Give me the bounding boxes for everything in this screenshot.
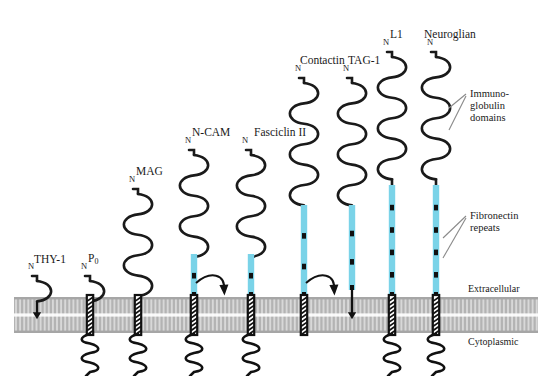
fibronectin-repeats-leader <box>443 216 466 238</box>
p0-n-terminus-label: N <box>81 262 87 272</box>
tag-1-fibronectin-rod <box>349 205 355 290</box>
annotation-leaders <box>443 94 466 258</box>
l1-fibronectin-rod <box>389 185 395 297</box>
l1-fibronectin-band <box>390 272 394 278</box>
contactin-ig-domains <box>290 83 318 205</box>
mag-cytoplasmic-tail <box>130 334 147 376</box>
fasciclin-ii-fibronectin-band <box>249 273 253 279</box>
mag-ig-domains <box>124 194 152 296</box>
n-cam-gpi-arrowhead <box>219 284 228 295</box>
n-cam-gpi-curve <box>196 275 224 291</box>
neuroglian-cytoplasmic-tail <box>428 334 445 376</box>
molecule-n-cam[interactable] <box>180 150 229 376</box>
annotation-line: globulin <box>470 100 509 112</box>
tag-1-ig-domains <box>338 83 366 205</box>
annotation-immunoglobulin-domains: Immuno-globulindomains <box>470 88 509 123</box>
fasciclin-ii-ig-domains <box>237 155 265 257</box>
tag-1-n-terminus-label: N <box>343 64 349 74</box>
molecule-name-subscript: 0 <box>94 257 98 266</box>
cytoplasmic-label: Cytoplasmic <box>468 336 519 347</box>
n-cam-cytoplasmic-tail <box>186 334 203 376</box>
l1-n-terminus-label: N <box>383 38 389 48</box>
molecule-name-n-cam: N-CAM <box>192 126 230 139</box>
l1-cytoplasmic-tail <box>384 334 401 376</box>
fasciclin-ii-cytoplasmic-tail <box>243 334 260 376</box>
tag-1-n-terminus-hook <box>347 78 352 83</box>
neuroglian-fibronectin-band <box>434 250 438 256</box>
annotation-line: domains <box>470 112 509 124</box>
neuroglian-n-terminus-label: N <box>427 38 433 48</box>
molecule-tag-1[interactable] <box>338 78 366 319</box>
tag-1-fibronectin-band <box>350 285 354 290</box>
thy-1-n-terminus-label: N <box>28 262 34 272</box>
annotation-line: repeats <box>470 222 518 234</box>
molecule-fasciclin-ii[interactable] <box>237 150 265 376</box>
p0-n-terminus-hook <box>85 276 90 281</box>
diagram-canvas <box>0 0 552 376</box>
l1-fibronectin-band <box>390 205 394 211</box>
molecule-name-p0: P0 <box>88 252 98 267</box>
contactin-gpi-curve <box>306 275 334 291</box>
neuroglian-fibronectin-band <box>434 272 438 278</box>
molecule-name-tag-1: TAG-1 <box>348 54 380 67</box>
contactin-fibronectin-band <box>302 233 306 239</box>
molecule-name-mag: MAG <box>136 165 163 178</box>
l1-fibronectin-band <box>390 227 394 233</box>
l1-n-terminus-hook <box>387 52 392 57</box>
molecule-name-l1: L1 <box>390 28 403 41</box>
contactin-n-terminus-label: N <box>295 64 301 74</box>
molecule-contactin[interactable] <box>290 78 339 335</box>
thy-1-n-terminus-hook <box>32 276 37 281</box>
molecule-mag[interactable] <box>124 189 152 376</box>
fasciclin-ii-n-terminus-label: N <box>242 136 248 146</box>
neuroglian-ig-domains <box>422 57 450 179</box>
molecule-name-fasciclin-ii: Fasciclin II <box>254 126 306 139</box>
neuroglian-fibronectin-band <box>434 227 438 233</box>
p0-cytoplasmic-tail <box>82 334 99 376</box>
fibronectin-repeats-leader <box>443 218 466 258</box>
tag-1-fibronectin-band <box>350 231 354 237</box>
mag-n-terminus-hook <box>133 189 138 194</box>
molecule-artwork <box>0 0 552 376</box>
n-cam-n-terminus-hook <box>189 150 194 155</box>
annotation-line: Fibronectin <box>470 210 518 222</box>
extracellular-label: Extracellular <box>468 283 520 294</box>
neuroglian-n-terminus-hook <box>431 52 436 57</box>
n-cam-n-terminus-label: N <box>185 136 191 146</box>
fasciclin-ii-n-terminus-hook <box>246 150 251 155</box>
n-cam-ig-domains <box>180 155 208 257</box>
l1-ig-domains <box>378 57 406 179</box>
molecule-name-contactin: Contactin <box>300 54 345 67</box>
contactin-n-terminus-hook <box>299 78 304 83</box>
neuroglian-fibronectin-rod <box>433 185 439 297</box>
annotation-line: Immuno- <box>470 88 509 100</box>
mag-n-terminus-label: N <box>129 175 135 185</box>
tag-1-fibronectin-band <box>350 259 354 265</box>
l1-fibronectin-band <box>390 250 394 256</box>
n-cam-fibronectin-band <box>192 273 196 279</box>
annotation-fibronectin-repeats: Fibronectinrepeats <box>470 210 518 234</box>
contactin-fibronectin-band <box>302 264 306 270</box>
molecule-name-thy-1: THY-1 <box>34 253 66 266</box>
contactin-gpi-arrowhead <box>329 284 338 295</box>
neuroglian-fibronectin-band <box>434 205 438 211</box>
